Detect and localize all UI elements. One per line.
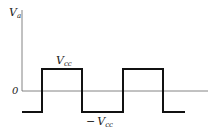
zero-label: 0: [12, 85, 19, 96]
high-level-label: Vcc: [56, 54, 72, 68]
square-wave-diagram: Va 0 Vcc −Vcc: [0, 0, 221, 132]
low-level-label: −Vcc: [86, 115, 113, 129]
y-axis-label: Va: [9, 6, 21, 20]
waveform: [22, 69, 185, 112]
